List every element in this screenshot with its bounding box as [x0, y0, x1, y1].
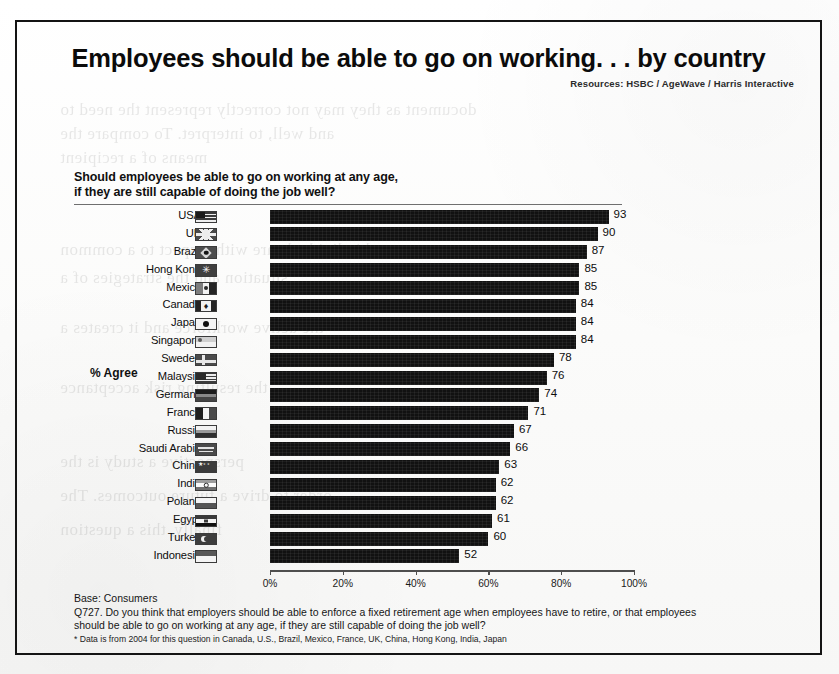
brazil-flag-icon — [195, 246, 217, 259]
bar-track — [270, 406, 634, 420]
bar-track — [270, 353, 634, 367]
singapore-flag-icon — [195, 336, 217, 349]
bar-value-label: 61 — [497, 512, 510, 524]
bar-value-label: 90 — [603, 226, 616, 238]
x-axis-tick — [634, 570, 635, 575]
sweden-flag-icon — [195, 354, 217, 367]
bar-value-label: 76 — [552, 369, 565, 381]
bar-row: Singapore84 — [17, 333, 824, 351]
mexico-flag-icon — [195, 282, 217, 295]
bar-value-label: 93 — [614, 208, 627, 220]
bar-rows: USA93UK90Brazil87Hong Kong85Mexico85Cana… — [17, 208, 824, 566]
x-axis-tick-label: 80% — [551, 578, 571, 589]
bar-track — [270, 263, 634, 277]
bar-row: China63 — [17, 458, 824, 476]
bar-value-label: 60 — [493, 530, 506, 542]
bar-row: France71 — [17, 405, 824, 423]
bar-row: Germany74 — [17, 387, 824, 405]
bar-track — [270, 514, 634, 528]
malaysia-flag-icon — [195, 372, 217, 385]
germany-flag-icon — [195, 389, 217, 402]
saudi-flag-icon — [195, 443, 217, 456]
bar-track — [270, 478, 634, 492]
bar-track — [270, 532, 634, 546]
bar-row: UK90 — [17, 226, 824, 244]
bar-track — [270, 371, 634, 385]
bar-value-label: 52 — [464, 548, 477, 560]
bar-fill — [270, 263, 579, 277]
x-axis-tick — [561, 570, 562, 575]
bar-value-label: 71 — [533, 405, 546, 417]
x-axis-tick-label: 20% — [333, 578, 353, 589]
bar-fill — [270, 478, 496, 492]
bar-fill — [270, 353, 554, 367]
bar-track — [270, 245, 634, 259]
footer-question: Q727. Do you think that employers should… — [74, 606, 714, 631]
slide-frame-border: Employees should be able to go on workin… — [15, 20, 822, 655]
bar-track — [270, 388, 634, 402]
bar-value-label: 85 — [584, 280, 597, 292]
x-axis-tick-label: 0% — [263, 578, 278, 589]
bar-track — [270, 281, 634, 295]
bar-row: Saudi Arabia66 — [17, 441, 824, 459]
turkey-flag-icon — [195, 533, 217, 546]
x-axis-tick-label: 60% — [478, 578, 498, 589]
footer-base: Base: Consumers — [74, 592, 714, 605]
bar-value-label: 78 — [559, 351, 572, 363]
footer-note: * Data is from 2004 for this question in… — [74, 633, 714, 645]
bar-chart: % Agree USA93UK90Brazil87Hong Kong85Mexi… — [17, 22, 824, 657]
bar-value-label: 87 — [592, 244, 605, 256]
russia-flag-icon — [195, 425, 217, 438]
bar-fill — [270, 335, 576, 349]
bar-track — [270, 317, 634, 331]
bar-row: Brazil87 — [17, 244, 824, 262]
egypt-flag-icon — [195, 515, 217, 528]
india-flag-icon — [195, 479, 217, 492]
bar-row: Russia67 — [17, 423, 824, 441]
bar-value-label: 84 — [581, 315, 594, 327]
bar-track — [270, 496, 634, 510]
bar-fill — [270, 227, 598, 241]
bar-fill — [270, 442, 510, 456]
china-flag-icon — [195, 461, 217, 474]
bar-fill — [270, 532, 488, 546]
bar-value-label: 62 — [501, 476, 514, 488]
bar-value-label: 84 — [581, 333, 594, 345]
bar-row: Indonesia52 — [17, 548, 824, 566]
bar-value-label: 66 — [515, 441, 528, 453]
bar-track — [270, 424, 634, 438]
x-axis-line — [270, 570, 634, 572]
bar-track — [270, 299, 634, 313]
bar-value-label: 85 — [584, 262, 597, 274]
bar-row: Malaysia76 — [17, 369, 824, 387]
bar-track — [270, 227, 634, 241]
x-axis-tick — [416, 570, 417, 575]
bar-row: Japan84 — [17, 315, 824, 333]
japan-flag-icon — [195, 318, 217, 331]
bar-value-label: 67 — [519, 423, 532, 435]
bar-row: Canada84 — [17, 297, 824, 315]
bar-fill — [270, 371, 547, 385]
bar-fill — [270, 496, 496, 510]
bar-fill — [270, 317, 576, 331]
bar-row: Poland62 — [17, 494, 824, 512]
x-axis-tick — [488, 570, 489, 575]
bar-row: Egypt61 — [17, 512, 824, 530]
bar-row: Mexico85 — [17, 280, 824, 298]
bar-fill — [270, 210, 609, 224]
bar-value-label: 63 — [504, 458, 517, 470]
x-axis-tick — [270, 570, 271, 575]
bar-category-label: Hong Kong — [146, 263, 201, 275]
bar-value-label: 84 — [581, 297, 594, 309]
bar-track — [270, 549, 634, 563]
bar-track — [270, 460, 634, 474]
bar-value-label: 74 — [544, 387, 557, 399]
canada-flag-icon — [195, 300, 217, 313]
bar-category-label: Saudi Arabia — [139, 442, 201, 454]
slide-content: Employees should be able to go on workin… — [17, 22, 820, 653]
france-flag-icon — [195, 407, 217, 420]
hk-flag-icon — [195, 264, 217, 277]
bar-row: Turkey60 — [17, 530, 824, 548]
bar-category-label: Singapore — [151, 334, 201, 346]
bar-fill — [270, 514, 492, 528]
